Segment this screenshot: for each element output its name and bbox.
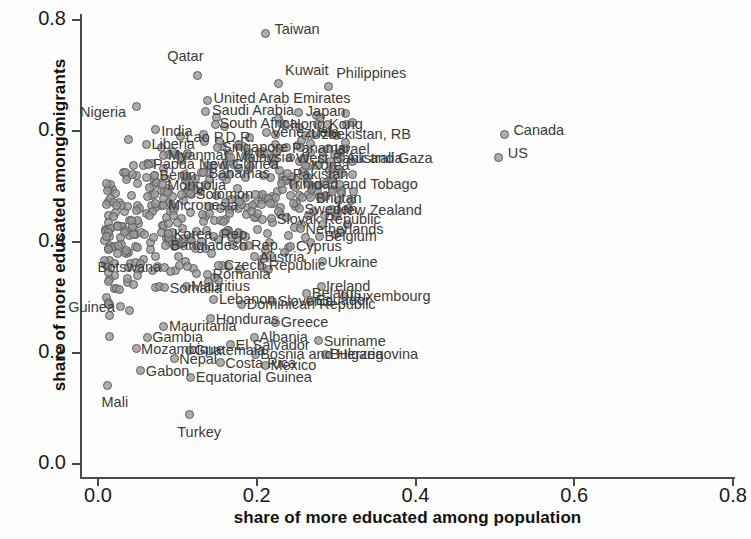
point-label: Philippines	[336, 66, 406, 81]
point-label: Ukraine	[328, 255, 378, 270]
point-label: Mali	[102, 395, 129, 410]
point-label: Canada	[513, 123, 564, 138]
point-label: Micronesia	[168, 198, 238, 213]
point-label: Somalia	[170, 281, 222, 296]
point-label: Gabon	[146, 364, 190, 379]
point-label: Nigeria	[80, 105, 126, 120]
point-label: Greece	[281, 315, 329, 330]
point-label: US	[508, 146, 528, 161]
point-label: Equatorial Guinea	[196, 370, 312, 385]
point-label: Botswana	[98, 260, 162, 275]
point-label: Dominican Republic	[247, 297, 376, 312]
point-label: Turkey	[177, 425, 221, 440]
point-label: Bulgaria	[330, 347, 383, 362]
point-label: Guinea	[68, 300, 115, 315]
point-label: Kuwait	[285, 63, 329, 78]
point-label: Qatar	[167, 49, 203, 64]
point-label: Taiwan	[274, 22, 319, 37]
